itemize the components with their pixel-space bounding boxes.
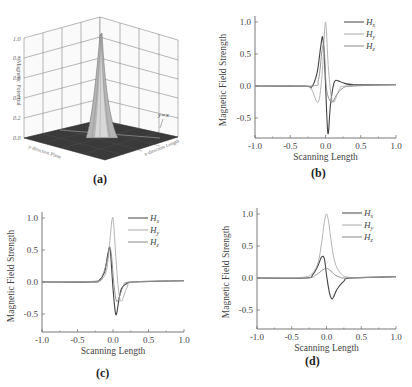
panel-d: -1.0-0.50.00.51.01.00.50.0-0.5HxHyHzScan… bbox=[221, 208, 402, 368]
y-axis-label: Magnetic Field Strength bbox=[6, 230, 16, 323]
x-tick-label: 0.5 bbox=[143, 335, 155, 345]
panel-b: -1.0-0.50.00.51.01.00.50.0-0.5HxHyHzScan… bbox=[218, 16, 402, 180]
legend-hz: Hz bbox=[365, 41, 376, 52]
x-tick-label: -1.0 bbox=[35, 335, 50, 345]
y-tick-label: 0.5 bbox=[240, 49, 252, 59]
z-axis-label: Magnetic Potential bbox=[16, 60, 22, 106]
y-axis-label: Magnetic Field Strength bbox=[218, 34, 228, 127]
x-tick-label: 1.0 bbox=[178, 335, 190, 345]
legend-hz: Hz bbox=[363, 232, 374, 243]
annotation-y-equals-x: y=x bbox=[157, 111, 170, 119]
y-axis-label: Magnetic Field Strength bbox=[221, 226, 231, 319]
x-axis-label: Scanning Length bbox=[81, 346, 146, 356]
z-tick: 0.2 bbox=[13, 115, 21, 121]
y-tick-label: 0.0 bbox=[242, 273, 254, 283]
y-tick-label: -0.5 bbox=[237, 113, 252, 123]
x-axis-label: Scanning Length bbox=[293, 152, 358, 162]
legend-hx: Hx bbox=[363, 208, 374, 219]
panel-label-d: (d) bbox=[305, 354, 320, 368]
x-tick-label: 0.5 bbox=[355, 141, 367, 151]
legend-hy: Hy bbox=[149, 225, 160, 236]
y-tick-label: 1.0 bbox=[27, 213, 39, 223]
y-tick-label: 0.5 bbox=[242, 241, 254, 251]
y-tick-label: 1.0 bbox=[240, 17, 252, 27]
panel-c: -1.0-0.50.00.51.01.00.50.0-0.5HxHyHzScan… bbox=[6, 212, 190, 380]
x-tick-label: 1.0 bbox=[390, 141, 402, 151]
legend-hx: Hx bbox=[149, 213, 160, 224]
figure-canvas: 1.0 0.8 0.6 0.4 0.2 0.0 Magnetic Potenti… bbox=[0, 0, 412, 387]
y-tick-label: 0.0 bbox=[240, 81, 252, 91]
legend-hy: Hy bbox=[365, 29, 376, 40]
panel-label-c: (c) bbox=[96, 366, 109, 380]
x-tick-label: -0.5 bbox=[283, 141, 298, 151]
x-tick-label: 0.0 bbox=[320, 141, 332, 151]
y-tick-label: -0.5 bbox=[239, 305, 254, 315]
panel-label-a: (a) bbox=[93, 172, 107, 186]
panel-a: 1.0 0.8 0.6 0.4 0.2 0.0 Magnetic Potenti… bbox=[13, 17, 180, 186]
legend-hz: Hz bbox=[149, 237, 160, 248]
x-tick-label: 0.0 bbox=[321, 332, 333, 342]
legend-hy: Hy bbox=[363, 220, 374, 231]
x-tick-label: 0.5 bbox=[356, 332, 368, 342]
x-tick-label: -0.5 bbox=[70, 335, 85, 345]
z-tick: 1.0 bbox=[13, 36, 21, 42]
y-tick-label: 0.5 bbox=[27, 245, 39, 255]
x-axis-label: Scanning Length bbox=[294, 343, 359, 353]
x-tick-label: -0.5 bbox=[285, 332, 300, 342]
y-tick-label: -0.5 bbox=[24, 309, 39, 319]
y-tick-label: 1.0 bbox=[242, 209, 254, 219]
x-tick-label: 1.0 bbox=[390, 332, 402, 342]
y-tick-label: 0.0 bbox=[27, 277, 39, 287]
legend-hx: Hx bbox=[365, 17, 376, 28]
x-tick-label: 0.0 bbox=[107, 335, 119, 345]
x-tick-label: -1.0 bbox=[250, 332, 265, 342]
x-tick-label: -1.0 bbox=[248, 141, 263, 151]
panel-label-b: (b) bbox=[311, 166, 326, 180]
z-tick: 0.0 bbox=[13, 135, 21, 141]
